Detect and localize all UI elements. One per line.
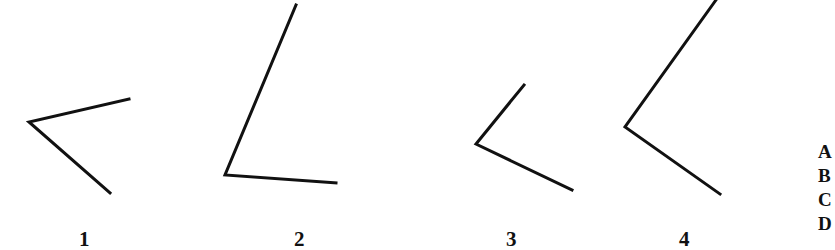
angles-figure: 1 2 3 4 A B C D — [0, 0, 835, 250]
option-d: D — [818, 213, 832, 234]
angle-2-arms — [225, 5, 336, 183]
angle-4-label: 4 — [679, 227, 690, 250]
angle-4: 4 — [625, 0, 720, 250]
angle-3-label: 3 — [506, 227, 517, 250]
angle-1: 1 — [29, 99, 129, 250]
angle-1-label: 1 — [79, 227, 90, 250]
option-b: B — [818, 165, 831, 186]
angle-1-arms — [29, 99, 129, 193]
option-c: C — [818, 189, 832, 210]
angle-2: 2 — [225, 5, 336, 250]
angle-2-label: 2 — [294, 227, 305, 250]
angle-4-arms — [625, 0, 720, 194]
angle-3-arms — [476, 85, 572, 190]
answer-options: A B C D — [818, 141, 832, 234]
option-a: A — [818, 141, 832, 162]
angle-3: 3 — [476, 85, 572, 250]
